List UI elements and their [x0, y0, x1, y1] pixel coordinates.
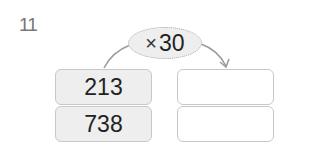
operation-operand: 30 [159, 30, 185, 57]
multiply-icon: × [145, 32, 157, 55]
answer-box-2[interactable] [177, 106, 274, 142]
answer-box-1[interactable] [177, 69, 274, 105]
operation-bubble: × 30 [128, 27, 202, 59]
input-box-2: 738 [55, 106, 152, 142]
input-box-1: 213 [55, 69, 152, 105]
